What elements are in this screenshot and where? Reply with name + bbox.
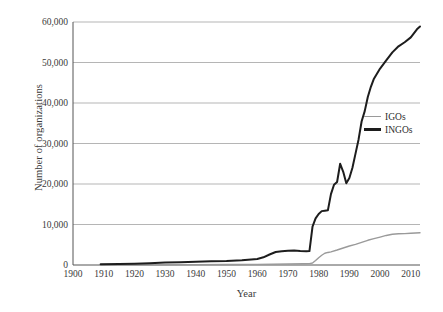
x-tick-label: 1920 bbox=[125, 269, 144, 279]
chart-container: Number of organizations 010,00020,00030,… bbox=[0, 0, 443, 312]
x-tick-label: 1930 bbox=[156, 269, 175, 279]
x-tick-label: 1910 bbox=[94, 269, 113, 279]
legend-item-ingos[interactable]: INGOs bbox=[364, 123, 412, 136]
x-tick-label: 2000 bbox=[371, 269, 390, 279]
x-tick-label: 1960 bbox=[248, 269, 267, 279]
x-tick-label: 2010 bbox=[401, 269, 420, 279]
chart-plot-area bbox=[0, 0, 443, 312]
series-line-igos bbox=[101, 233, 420, 265]
x-tick-label: 1950 bbox=[217, 269, 236, 279]
legend-item-igos[interactable]: IGOs bbox=[364, 110, 412, 123]
x-axis-title: Year bbox=[73, 288, 420, 299]
x-tick-label: 1990 bbox=[340, 269, 359, 279]
chart-legend: IGOs INGOs bbox=[364, 110, 412, 136]
legend-label-igos: IGOs bbox=[385, 112, 406, 122]
x-tick-label: 1940 bbox=[186, 269, 205, 279]
legend-label-ingos: INGOs bbox=[385, 125, 412, 135]
legend-line-icon-ingos bbox=[364, 128, 381, 130]
x-tick-label: 1900 bbox=[64, 269, 83, 279]
x-tick-label: 1970 bbox=[278, 269, 297, 279]
x-tick-label: 1980 bbox=[309, 269, 328, 279]
legend-line-icon-igos bbox=[364, 116, 381, 117]
